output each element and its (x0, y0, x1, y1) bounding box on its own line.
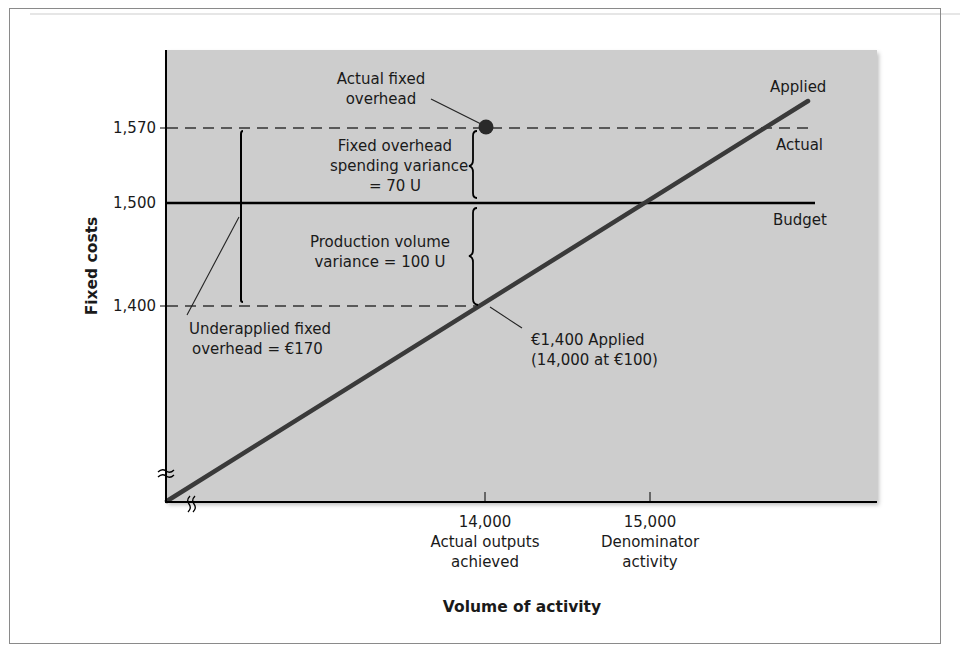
x-tick-sub-14000-line2: achieved (415, 552, 555, 572)
actual-fixed-overhead-annotation: Actual fixed overhead (316, 69, 446, 109)
x-tick-sub-14000-line1: Actual outputs (415, 532, 555, 552)
annotation-line: Production volume (300, 232, 460, 252)
annotation-line: (14,000 at €100) (531, 350, 658, 370)
actual-line-label: Actual (776, 135, 823, 155)
annotation-line: overhead (316, 89, 446, 109)
applied-note-leader (490, 307, 522, 328)
annotation-line: €1,400 Applied (531, 330, 658, 350)
applied-line-label: Applied (770, 77, 826, 97)
x-tick-label-14000: 14,000 Actual outputs achieved (415, 512, 555, 572)
x-tick-label-15000: 15,000 Denominator activity (580, 512, 720, 572)
x-tick-sub-15000-line2: activity (580, 552, 720, 572)
x-axis-break-icon (188, 496, 196, 512)
budget-line-label: Budget (773, 210, 827, 230)
y-tick-label-1570: 1,570 (96, 118, 156, 138)
spending-variance-annotation: Fixed overhead spending variance = 70 U (330, 136, 460, 196)
x-tick-sub-15000-line1: Denominator (580, 532, 720, 552)
x-axis-title: Volume of activity (422, 597, 622, 617)
underapplied-annotation: Underapplied fixed overhead = €170 (189, 319, 331, 359)
annotation-line: variance = 100 U (300, 252, 460, 272)
x-tick-value-15000: 15,000 (580, 512, 720, 532)
spending-variance-brace (469, 131, 477, 198)
applied-1400-annotation: €1,400 Applied (14,000 at €100) (531, 330, 658, 370)
x-tick-value-14000: 14,000 (415, 512, 555, 532)
y-tick-label-1500: 1,500 (96, 193, 156, 213)
annotation-line: overhead = €170 (189, 339, 331, 359)
underapplied-leader (187, 217, 239, 315)
annotation-line: spending variance (330, 156, 460, 176)
annotation-line: = 70 U (330, 176, 460, 196)
volume-variance-annotation: Production volume variance = 100 U (300, 232, 460, 272)
y-tick-label-1400: 1,400 (96, 296, 156, 316)
annotation-line: Fixed overhead (330, 136, 460, 156)
underapplied-bracket (241, 131, 243, 302)
annotation-line: Underapplied fixed (189, 319, 331, 339)
annotation-line: Actual fixed (316, 69, 446, 89)
volume-variance-brace (469, 208, 478, 305)
y-axis-title: Fixed costs (82, 216, 102, 316)
actual-fixed-overhead-point (479, 120, 494, 135)
applied-line (167, 101, 808, 501)
